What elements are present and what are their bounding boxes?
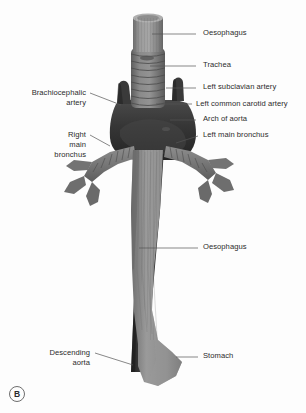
label-brachiocephalic-artery: Brachiocephalic artery <box>14 88 86 108</box>
label-left-common-carotid-artery: Left common carotid artery <box>196 99 288 109</box>
leader-line-right-main-bronchus <box>90 135 110 146</box>
oesophagus-lower-shape <box>131 150 182 386</box>
leader-line-descending-aorta <box>95 353 133 365</box>
anatomy-figure: OesophagusTracheaLeft subclavian arteryL… <box>0 0 306 413</box>
trachea-shape <box>131 48 165 108</box>
left-subclavian-artery-shape <box>172 78 184 102</box>
label-oesophagus-lower: Oesophagus <box>203 242 247 252</box>
leader-line-brachiocephalic-artery <box>90 93 121 105</box>
oesophagus-upper-shape <box>133 13 163 52</box>
label-trachea: Trachea <box>203 60 231 70</box>
panel-letter: B <box>9 386 25 402</box>
left-main-bronchus-shape <box>164 146 234 203</box>
label-descending-aorta: Descending aorta <box>22 348 90 368</box>
label-right-main-bronchus: Right main bronchus <box>20 130 86 161</box>
label-arch-of-aorta: Arch of aorta <box>203 114 247 124</box>
label-oesophagus-upper: Oesophagus <box>203 28 247 38</box>
label-stomach: Stomach <box>203 351 233 361</box>
label-left-main-bronchus: Left main bronchus <box>203 130 268 140</box>
label-left-subclavian-artery: Left subclavian artery <box>203 82 276 92</box>
brachiocephalic-artery-shape <box>117 81 131 104</box>
